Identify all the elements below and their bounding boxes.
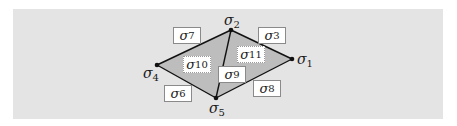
vertex-index: 5 (219, 107, 225, 118)
vertex-label-sigma-4: σ4 (143, 66, 159, 83)
vertex-index: 4 (153, 72, 159, 83)
sigma-symbol: σ (209, 100, 219, 116)
face-index: 10 (195, 60, 208, 70)
sigma-symbol: σ (264, 29, 273, 42)
edge-label-sigma-8: σ8 (253, 80, 281, 97)
sigma-symbol: σ (186, 58, 195, 71)
sigma-symbol: σ (170, 87, 179, 100)
edge-label-sigma-7: σ7 (173, 27, 201, 44)
face-label-sigma-11: σ11 (237, 46, 265, 63)
edge-index: 3 (273, 31, 279, 41)
vertex-label-sigma-1: σ1 (297, 52, 313, 69)
edge-index: 8 (268, 84, 274, 94)
sigma-symbol: σ (224, 12, 234, 28)
sigma-symbol: σ (179, 29, 188, 42)
edge-label-sigma-9: σ9 (218, 66, 246, 83)
edge-index: 6 (179, 89, 185, 99)
vertex-index: 2 (234, 19, 240, 30)
sigma-symbol: σ (259, 82, 268, 95)
diagram-canvas: σ2 σ1 σ4 σ5 σ7 σ3 σ9 σ6 σ8 σ10 σ11 (0, 0, 457, 126)
vertex-index: 1 (307, 58, 313, 69)
sigma-symbol: σ (143, 65, 153, 81)
edge-label-sigma-3: σ3 (258, 27, 286, 44)
sigma-symbol: σ (297, 51, 307, 67)
sigma-symbol: σ (224, 68, 233, 81)
edge-index: 9 (233, 70, 239, 80)
vertex-sigma-1 (290, 57, 295, 62)
vertex-label-sigma-5: σ5 (209, 101, 225, 118)
sigma-symbol: σ (240, 48, 249, 61)
edge-index: 7 (188, 31, 194, 41)
vertex-label-sigma-2: σ2 (224, 13, 240, 30)
face-index: 11 (249, 50, 262, 60)
edge-label-sigma-6: σ6 (164, 85, 192, 102)
face-label-sigma-10: σ10 (183, 56, 211, 73)
